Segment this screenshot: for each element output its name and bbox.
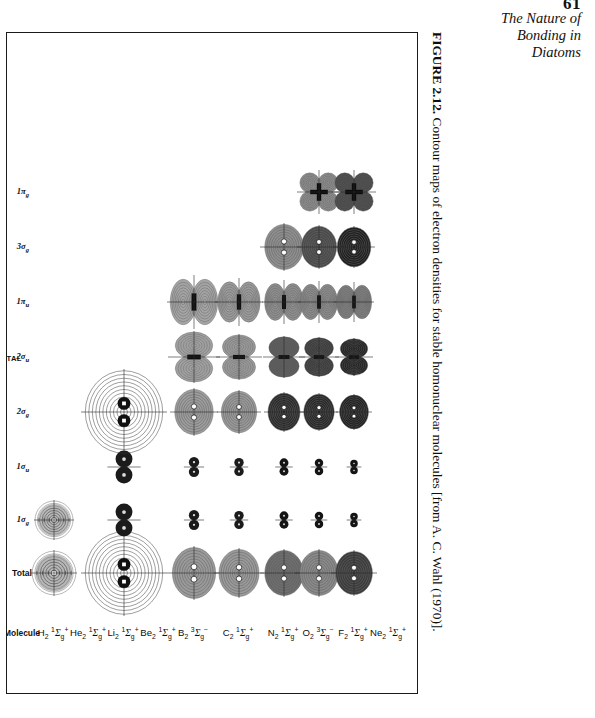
- orbital-cell-f2-2su: [335, 338, 373, 376]
- running-head-line-2: Bonding in: [501, 27, 581, 44]
- orbital-contour-map: [183, 456, 205, 478]
- orbital-contour-map: [167, 546, 221, 600]
- column-header-1su: 1σu: [6, 461, 41, 473]
- orbital-contour-map: [229, 457, 249, 477]
- orbital-cell-f2-2sg: [336, 394, 372, 430]
- orbital-contour-map: [229, 510, 249, 530]
- orbital-contour-map: [81, 530, 167, 616]
- orbital-cell-f2-1sg: [346, 512, 362, 528]
- orbital-contour-map: [336, 394, 372, 430]
- orbital-cell-li2-total: [81, 530, 167, 616]
- orbital-cell-o2-1su: [310, 458, 328, 476]
- orbital-cell-n2-2sg: [264, 392, 304, 432]
- figure-number: FIGURE 2.12.: [430, 32, 445, 114]
- orbital-contour-map: [275, 458, 294, 477]
- orbital-cell-o2-2su: [299, 337, 339, 377]
- orbital-cell-f2-1pg: [332, 170, 376, 214]
- row-label-ne2: Ne2 1Σg+: [358, 626, 418, 640]
- running-head-line-1: The Nature of: [501, 10, 581, 27]
- running-head-line-3: Diatoms: [501, 44, 581, 61]
- orbital-contour-map: [299, 337, 339, 377]
- column-header-2sg: 2σg: [6, 406, 41, 418]
- figure-frame: Total1σg1σu2σg2σu1πu3σg1πgMoleculeMOLECU…: [6, 32, 418, 694]
- orbital-cell-b2-2su: [168, 331, 220, 383]
- orbital-contour-map: [31, 550, 77, 596]
- orbital-cell-b2-1sg: [183, 509, 205, 531]
- running-head: The Nature of Bonding in Diatoms: [501, 10, 581, 61]
- orbital-cell-f2-total: [331, 550, 377, 596]
- orbital-contour-map: [214, 548, 264, 598]
- orbital-contour-map: [34, 500, 74, 540]
- orbital-contour-map: [335, 338, 373, 376]
- orbital-cell-n2-1su: [275, 458, 294, 477]
- orbital-cell-c2-1sg: [229, 510, 249, 530]
- orbital-contour-map: [167, 275, 221, 329]
- orbital-contour-map: [264, 392, 304, 432]
- orbital-cell-c2-2su: [216, 334, 262, 380]
- orbital-contour-map: [275, 511, 294, 530]
- orbital-cell-b2-1pu: [167, 275, 221, 329]
- orbital-contour-map: [168, 331, 220, 383]
- column-header-1pg: 1πg: [6, 186, 41, 198]
- orbital-cell-h2-1sg: [34, 500, 74, 540]
- orbital-contour-map: [216, 334, 262, 380]
- column-header-3sg: 3σg: [6, 241, 41, 253]
- orbital-cell-c2-1pu: [215, 278, 263, 326]
- orbital-contour-map: [170, 388, 218, 436]
- orbital-cell-c2-2sg: [217, 390, 261, 434]
- orbital-contour-map: [300, 393, 338, 431]
- figure-caption: FIGURE 2.12. Contour maps of electron de…: [424, 32, 450, 694]
- orbital-contour-map: [346, 512, 362, 528]
- orbital-cell-f2-3sg: [333, 226, 375, 268]
- figure-caption-text: Contour maps of electron densities for s…: [430, 114, 445, 631]
- orbital-contour-map: [215, 278, 263, 326]
- orbital-cell-c2-total: [214, 548, 264, 598]
- orbital-contour-map: [334, 282, 374, 322]
- orbital-contour-map: [217, 390, 261, 434]
- orbital-cell-b2-1su: [183, 456, 205, 478]
- orbital-cell-li2-2sg: [81, 369, 167, 455]
- orbital-contour-map: [81, 369, 167, 455]
- orbital-contour-map: [106, 502, 142, 538]
- orbital-contour-map: [333, 226, 375, 268]
- orbital-cell-b2-total: [167, 546, 221, 600]
- orbital-cell-n2-1sg: [275, 511, 294, 530]
- orbital-cell-o2-2sg: [300, 393, 338, 431]
- column-header-1pu: 1πu: [6, 296, 41, 308]
- orbital-contour-map: [183, 509, 205, 531]
- orbital-contour-map: [331, 550, 377, 596]
- orbital-cell-b2-2sg: [170, 388, 218, 436]
- orbital-contour-map: [310, 458, 328, 476]
- orbital-table: Total1σg1σu2σg2σu1πu3σg1πgMoleculeMOLECU…: [7, 33, 417, 693]
- orbital-contour-map: [310, 511, 328, 529]
- orbital-cell-o2-1sg: [310, 511, 328, 529]
- orbital-cell-c2-1su: [229, 457, 249, 477]
- orbital-contour-map: [346, 459, 362, 475]
- orbital-cell-li2-1sg: [106, 502, 142, 538]
- molecular-orbital-group-label: MOLECULAR ORBITAL: [6, 354, 28, 363]
- orbital-cell-f2-1su: [346, 459, 362, 475]
- orbital-contour-map: [332, 170, 376, 214]
- orbital-cell-f2-1pu: [334, 282, 374, 322]
- orbital-cell-h2-total: [31, 550, 77, 596]
